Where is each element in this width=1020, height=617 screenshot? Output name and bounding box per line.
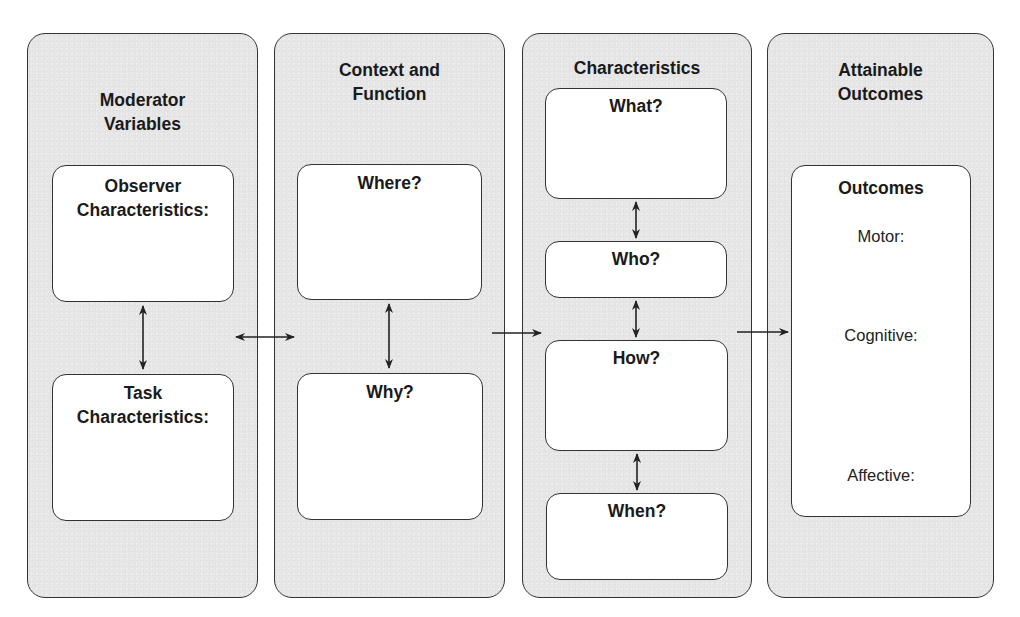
panel-title-moderator-variables: Moderator Variables	[28, 88, 257, 136]
box-title-outcomes: Outcomes	[792, 176, 970, 200]
box-title-task-characteristics: Task Characteristics:	[53, 381, 233, 429]
panel-title-context-and-function: Context and Function	[275, 58, 504, 106]
box-what: What?	[545, 88, 727, 199]
box-when: When?	[546, 493, 728, 580]
box-title-observer-characteristics: Observer Characteristics:	[53, 174, 233, 222]
box-title-who: Who?	[546, 247, 726, 271]
box-observer-characteristics: Observer Characteristics:	[52, 165, 234, 302]
box-who: Who?	[545, 241, 727, 298]
box-title-when: When?	[547, 499, 727, 523]
box-why: Why?	[297, 373, 483, 520]
box-title-how: How?	[546, 346, 727, 370]
box-task-characteristics: Task Characteristics:	[52, 374, 234, 521]
box-how: How?	[545, 340, 728, 451]
box-outcomes: Outcomes Motor: Cognitive: Affective:	[791, 165, 971, 517]
box-title-why: Why?	[298, 380, 482, 404]
outcome-motor: Motor:	[792, 227, 970, 246]
panel-title-attainable-outcomes: Attainable Outcomes	[768, 58, 993, 106]
box-title-what: What?	[546, 94, 726, 118]
outcome-affective: Affective:	[792, 466, 970, 485]
box-where: Where?	[297, 164, 482, 300]
panel-title-characteristics: Characteristics	[523, 56, 751, 80]
box-title-where: Where?	[298, 171, 481, 195]
outcome-cognitive: Cognitive:	[792, 326, 970, 345]
